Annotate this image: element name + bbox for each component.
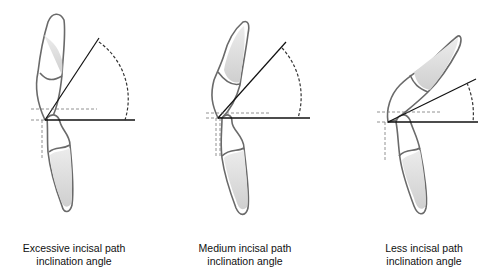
caption-medium-line1: Medium incisal path	[165, 242, 325, 255]
caption-excessive: Excessive incisal path inclination angle	[0, 242, 154, 268]
panel-less	[377, 36, 478, 214]
diagram-canvas	[0, 0, 488, 280]
caption-medium: Medium incisal path inclination angle	[165, 242, 325, 268]
lower-tooth-less	[396, 115, 427, 214]
caption-excessive-line2: inclination angle	[0, 255, 154, 268]
caption-less-line2: inclination angle	[344, 255, 488, 268]
caption-less-line1: Less incisal path	[344, 242, 488, 255]
caption-medium-line2: inclination angle	[165, 255, 325, 268]
upper-tooth-less	[388, 36, 462, 122]
caption-excessive-line1: Excessive incisal path	[0, 242, 154, 255]
panel-medium	[206, 22, 310, 215]
lower-tooth-excessive	[47, 115, 73, 212]
panel-excessive	[31, 14, 135, 211]
upper-tooth-excessive	[36, 14, 64, 120]
lower-tooth-medium	[221, 115, 248, 214]
caption-less: Less incisal path inclination angle	[344, 242, 488, 268]
